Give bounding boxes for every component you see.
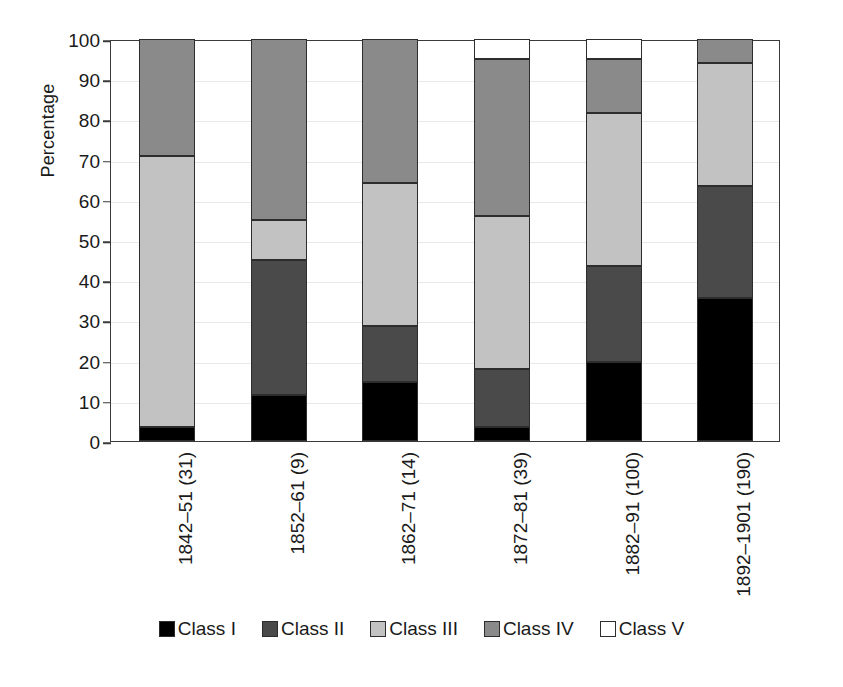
- stacked-bar[interactable]: [139, 39, 195, 441]
- legend-label: Class III: [389, 618, 458, 640]
- stacked-bar[interactable]: [362, 39, 418, 441]
- bar-segment[interactable]: [586, 113, 642, 266]
- y-tick-mark: [103, 402, 111, 404]
- legend-label: Class II: [281, 618, 344, 640]
- y-tick-label: 90: [79, 70, 100, 92]
- legend-item[interactable]: Class III: [370, 618, 458, 640]
- bar-segment[interactable]: [586, 39, 642, 59]
- legend-item[interactable]: Class I: [159, 618, 236, 640]
- y-tick-mark: [103, 40, 111, 42]
- stacked-bar[interactable]: [697, 39, 753, 441]
- bar-segment[interactable]: [139, 156, 195, 427]
- y-tick-label: 10: [79, 392, 100, 414]
- stacked-bar[interactable]: [474, 39, 530, 441]
- y-tick-mark: [103, 201, 111, 203]
- legend: Class IClass IIClass IIIClass IVClass V: [0, 618, 843, 640]
- chart-page: Percentage 0102030405060708090100 1842–5…: [0, 0, 843, 687]
- y-tick-mark: [103, 161, 111, 163]
- bar-segment[interactable]: [251, 260, 307, 395]
- bar-segment[interactable]: [474, 216, 530, 369]
- bar-segment[interactable]: [362, 39, 418, 183]
- x-tick-label: 1852–61 (9): [287, 452, 309, 554]
- y-tick-label: 50: [79, 231, 100, 253]
- x-tick-label: 1862–71 (14): [398, 452, 420, 565]
- bar-segment[interactable]: [697, 39, 753, 63]
- legend-item[interactable]: Class II: [262, 618, 344, 640]
- gridline: [111, 121, 779, 122]
- legend-label: Class IV: [503, 618, 574, 640]
- bar-segment[interactable]: [362, 382, 418, 441]
- bar-segment[interactable]: [586, 59, 642, 113]
- x-tick-label: 1882–91 (100): [622, 452, 644, 576]
- legend-swatch-icon: [484, 621, 500, 637]
- gridline: [111, 162, 779, 163]
- stacked-bar[interactable]: [586, 39, 642, 441]
- plot-area: 0102030405060708090100: [110, 40, 780, 442]
- y-tick-label: 40: [79, 271, 100, 293]
- y-tick-label: 20: [79, 352, 100, 374]
- bar-segment[interactable]: [139, 39, 195, 156]
- y-tick-label: 0: [89, 432, 100, 454]
- x-tick-label: 1872–81 (39): [510, 452, 532, 565]
- y-tick-label: 80: [79, 110, 100, 132]
- legend-swatch-icon: [159, 621, 175, 637]
- gridline: [111, 202, 779, 203]
- bar-segment[interactable]: [474, 59, 530, 216]
- x-tick-label: 1842–51 (31): [175, 452, 197, 565]
- y-tick-mark: [103, 80, 111, 82]
- legend-swatch-icon: [600, 621, 616, 637]
- gridline: [111, 242, 779, 243]
- y-tick-label: 100: [68, 30, 100, 52]
- gridline: [111, 363, 779, 364]
- gridline: [111, 81, 779, 82]
- legend-swatch-icon: [262, 621, 278, 637]
- legend-swatch-icon: [370, 621, 386, 637]
- bar-segment[interactable]: [474, 427, 530, 441]
- legend-item[interactable]: Class IV: [484, 618, 574, 640]
- bar-segment[interactable]: [586, 362, 642, 441]
- bar-segment[interactable]: [474, 369, 530, 427]
- y-tick-label: 30: [79, 311, 100, 333]
- y-tick-mark: [103, 442, 111, 444]
- y-axis-title: Percentage: [38, 31, 59, 231]
- gridline: [111, 403, 779, 404]
- bar-segment[interactable]: [362, 183, 418, 327]
- legend-label: Class I: [178, 618, 236, 640]
- y-tick-mark: [103, 362, 111, 364]
- bar-segment[interactable]: [697, 186, 753, 299]
- bar-segment[interactable]: [586, 266, 642, 362]
- bar-segment[interactable]: [139, 427, 195, 441]
- bar-segment[interactable]: [251, 220, 307, 260]
- y-tick-mark: [103, 241, 111, 243]
- bar-segment[interactable]: [474, 39, 530, 59]
- bar-segment[interactable]: [362, 326, 418, 382]
- x-tick-label: 1892–1901 (190): [733, 452, 755, 597]
- bar-segment[interactable]: [251, 395, 307, 441]
- y-tick-mark: [103, 121, 111, 123]
- bar-segment[interactable]: [251, 39, 307, 220]
- y-tick-mark: [103, 281, 111, 283]
- stacked-bar[interactable]: [251, 39, 307, 441]
- bar-segment[interactable]: [697, 298, 753, 441]
- gridline: [111, 322, 779, 323]
- legend-label: Class V: [619, 618, 684, 640]
- legend-item[interactable]: Class V: [600, 618, 684, 640]
- y-tick-label: 70: [79, 151, 100, 173]
- bar-segment[interactable]: [697, 63, 753, 186]
- y-tick-label: 60: [79, 191, 100, 213]
- gridline: [111, 282, 779, 283]
- y-tick-mark: [103, 322, 111, 324]
